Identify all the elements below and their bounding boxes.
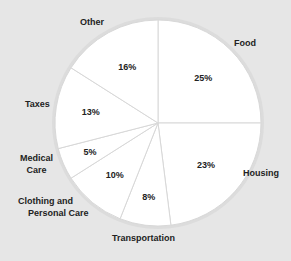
label-taxes: Taxes (25, 98, 50, 110)
label-medical-line1: Medical (20, 152, 53, 164)
label-clothing-personal-care: Clothing and Personal Care (18, 195, 89, 219)
pct-label-transportation: 8% (142, 192, 155, 202)
label-medical-care: Medical Care (20, 152, 53, 176)
pie-slice-food (158, 20, 261, 123)
label-transportation: Transportation (112, 232, 175, 244)
pct-label-housing: 23% (197, 160, 215, 170)
pct-label-clothing-and-personal-care: 10% (106, 170, 124, 180)
label-clothing-line1: Clothing and (18, 195, 89, 207)
label-housing: Housing (243, 167, 279, 179)
label-other: Other (80, 16, 104, 28)
pct-label-taxes: 13% (82, 107, 100, 117)
label-medical-line2: Care (20, 164, 53, 176)
pct-label-food: 25% (194, 73, 212, 83)
pct-label-other: 16% (118, 62, 136, 72)
pct-label-medical-care: 5% (83, 147, 96, 157)
label-food: Food (234, 37, 256, 49)
label-clothing-line2: Personal Care (18, 207, 89, 219)
